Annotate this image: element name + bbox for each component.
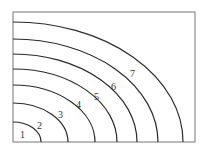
contour-curve-3 — [13, 85, 95, 142]
curve-label-7: 7 — [130, 68, 135, 79]
curve-label-6: 6 — [111, 81, 116, 92]
curve-label-2: 2 — [37, 120, 42, 131]
contour-curve-6 — [13, 39, 158, 142]
curve-label-4: 4 — [76, 99, 81, 110]
curve-label-1: 1 — [20, 129, 25, 140]
curve-labels: 1234567 — [20, 68, 135, 140]
contour-curve-5 — [13, 54, 137, 142]
contour-diagram: 1234567 — [0, 0, 208, 154]
curve-label-3: 3 — [58, 109, 63, 120]
curve-label-5: 5 — [94, 91, 99, 102]
